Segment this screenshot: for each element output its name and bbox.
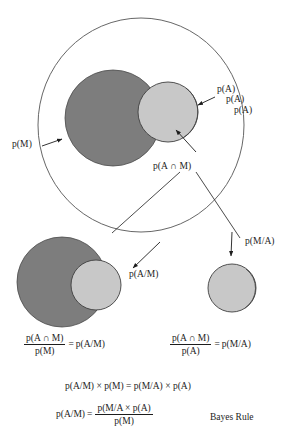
formula-right-equals: = — [213, 339, 220, 350]
p-a-leader-line — [198, 97, 215, 105]
branch-line-to-right-diagram — [196, 172, 240, 238]
formula-bayes-denominator: p(M) — [112, 415, 136, 426]
formula-right-denominator: p(A) — [180, 345, 202, 356]
label-p-a-and-m: p(A ∩ M) — [153, 161, 191, 171]
label-p-a-2: p(A) — [226, 94, 244, 104]
formula-right-numerator: p(A ∩ M) — [170, 333, 211, 345]
formula-product-text: p(A/M) × p(M) = p(M/A) × p(A) — [64, 381, 192, 392]
label-p-m: p(M) — [12, 139, 32, 149]
formula-bayes-fraction: p(M/A × p(A) p(M) — [95, 403, 152, 427]
formula-left-result: p(A/M) — [75, 339, 106, 350]
formula-bayes: p(A/M) = p(M/A × p(A) p(M) — [55, 403, 155, 427]
formula-left-denominator: p(M) — [33, 345, 57, 356]
p-m-given-a-arrow — [231, 232, 232, 256]
bayes-rule-tag: Bayes Rule — [210, 412, 254, 422]
label-p-m-given-a: p(M/A) — [245, 236, 275, 246]
formula-product: p(A/M) × p(M) = p(M/A) × p(A) — [64, 381, 192, 392]
formula-left-fraction: p(A ∩ M) p(M) — [24, 333, 65, 357]
formula-bayes-equals: = — [86, 409, 93, 420]
formula-bayes-lhs: p(A/M) — [55, 409, 86, 420]
formula-left-equals: = — [67, 339, 74, 350]
branch-line-to-left-diagram — [112, 172, 180, 233]
set-a-circle-small — [71, 260, 121, 310]
formula-right: p(A ∩ M) p(A) = p(M/A) — [168, 333, 252, 357]
formula-right-result: p(M/A) — [221, 339, 252, 350]
label-p-a-given-m: p(A/M) — [129, 269, 159, 279]
formula-left-numerator: p(A ∩ M) — [24, 333, 65, 345]
formula-right-fraction: p(A ∩ M) p(A) — [170, 333, 211, 357]
p-m-leader-line — [42, 139, 62, 146]
formula-bayes-numerator: p(M/A × p(A) — [95, 403, 152, 415]
diagram-vector-layer — [0, 0, 300, 437]
label-p-a-3: p(A) — [234, 105, 252, 115]
formula-left: p(A ∩ M) p(M) = p(A/M) — [22, 333, 106, 357]
p-a-given-m-arrow — [133, 242, 160, 268]
label-p-a-1: p(A) — [217, 84, 235, 94]
bayes-rule-figure: p(M) p(A) p(A) p(A) p(A ∩ M) p(A/M) p(M/… — [0, 0, 300, 437]
